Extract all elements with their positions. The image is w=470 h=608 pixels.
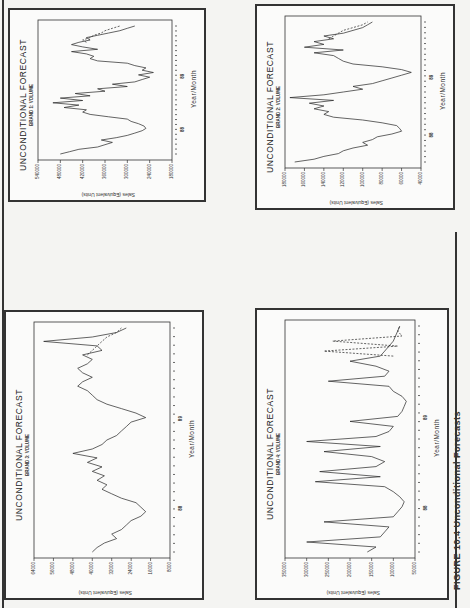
x-year-mark: 89 [429, 75, 434, 80]
chart-panel-brand3: UNCONDITIONAL FORECASTBRAND 3: VOLUME640… [4, 310, 204, 600]
y-tick-label: 480000 [57, 164, 62, 198]
y-tick-label: 56000 [50, 562, 55, 596]
y-tick-label: 48000 [70, 562, 75, 596]
actual-series-line [44, 328, 146, 552]
actual-series-line [53, 26, 153, 154]
chart-brand2: UNCONDITIONAL FORECASTBRAND 2: VOLUME180… [257, 6, 453, 208]
y-tick-label: 180000 [169, 164, 174, 198]
y-tick-label: 240000 [147, 164, 152, 198]
x-axis-label: Year/Month [188, 420, 195, 458]
x-axis-label: Year/Month [439, 72, 446, 110]
x-year-mark: 88 [423, 505, 428, 510]
chart-panel-brand2: UNCONDITIONAL FORECASTBRAND 2: VOLUME180… [255, 4, 455, 210]
y-tick-label: 350000 [282, 562, 287, 596]
y-tick-label: 300000 [304, 562, 309, 596]
x-year-mark: 89 [178, 416, 183, 421]
x-year-mark: 89 [423, 415, 428, 420]
x-year-mark: 88 [178, 506, 183, 511]
forecast-series-line [83, 26, 120, 42]
actual-series-line [307, 326, 407, 552]
x-axis-label: Year/Month [433, 419, 440, 457]
y-tick-label: 8000 [167, 562, 172, 596]
figure-caption: FIGURE 10.4 Unconditional Forecasts [452, 420, 466, 590]
x-year-mark: 89 [180, 74, 185, 79]
chart-brand1: UNCONDITIONAL FORECASTBRAND 1: VOLUME540… [10, 10, 204, 200]
y-tick-label: 140000 [321, 172, 326, 206]
y-axis-label: Sales (Equivalent Units) [330, 200, 383, 206]
y-tick-label: 60000 [399, 172, 404, 206]
y-axis-label: Sales (Equivalent Units) [82, 192, 135, 198]
y-tick-label: 40000 [418, 172, 423, 206]
x-axis-label: Year/Month [190, 70, 197, 108]
forecast-series-line [329, 22, 368, 39]
plot-area [6, 312, 202, 598]
x-year-mark: 88 [180, 127, 185, 132]
actual-series-line [290, 22, 411, 162]
plot-area [257, 310, 447, 598]
y-tick-label: 100000 [390, 562, 395, 596]
y-tick-label: 16000 [148, 562, 153, 596]
chart-panel-brand1: UNCONDITIONAL FORECASTBRAND 1: VOLUME540… [8, 8, 206, 202]
y-axis-label: Sales (Equivalent Units) [79, 590, 132, 596]
forecast-series-line [87, 328, 121, 355]
y-tick-label: 540000 [35, 164, 40, 198]
chart-brand4: UNCONDITIONAL FORECASTBRAND 4: VOLUME350… [257, 310, 447, 598]
y-tick-label: 160000 [301, 172, 306, 206]
y-tick-label: 64000 [31, 562, 36, 596]
chart-brand3: UNCONDITIONAL FORECASTBRAND 3: VOLUME640… [6, 312, 202, 598]
forecast-series-line [324, 326, 402, 356]
y-tick-label: 180000 [282, 172, 287, 206]
x-year-mark: 88 [429, 133, 434, 138]
chart-panel-brand4: UNCONDITIONAL FORECASTBRAND 4: VOLUME350… [255, 308, 449, 600]
y-axis-label: Sales (Equivalent Units) [327, 590, 380, 596]
y-tick-label: 50000 [412, 562, 417, 596]
